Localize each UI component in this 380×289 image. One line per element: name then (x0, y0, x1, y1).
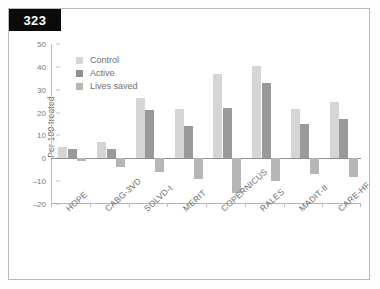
bar-lives-saved (155, 158, 164, 172)
legend-swatch-control (76, 57, 83, 64)
y-tick-label: 50 (24, 40, 46, 49)
page-number-badge: 323 (9, 9, 61, 31)
legend-item: Active (76, 67, 138, 79)
bar-chart: Per 100 treated 50403020100–10–20 Contro… (14, 44, 366, 274)
y-tick-label: 0 (24, 154, 46, 163)
y-axis-line (51, 44, 52, 204)
bar-group (175, 44, 203, 204)
bar-control (58, 147, 67, 158)
y-tick-label: 30 (24, 85, 46, 94)
bar-active (145, 110, 154, 158)
bar-active (300, 124, 309, 158)
legend-label: Active (90, 68, 115, 78)
y-tick-label: 40 (24, 62, 46, 71)
page-container: 323 Per 100 treated 50403020100–10–20 Co… (0, 0, 380, 289)
bar-active (107, 149, 116, 158)
bar-group (213, 44, 241, 204)
bar-lives-saved (194, 158, 203, 179)
bar-lives-saved (310, 158, 319, 174)
bar-group (330, 44, 358, 204)
legend-label: Control (90, 55, 119, 65)
bar-control (291, 109, 300, 158)
x-axis-tick-labels: HOPECABG-3VDSOLVD-tMERITCOPERNICUSRALESM… (51, 206, 361, 268)
y-tick-label: –10 (24, 177, 46, 186)
legend-swatch-lives-saved (76, 83, 83, 90)
legend-label: Lives saved (90, 81, 138, 91)
bar-lives-saved (77, 158, 86, 160)
bar-control (330, 102, 339, 158)
chart-legend: ControlActiveLives saved (76, 54, 138, 93)
bar-control (175, 109, 184, 158)
bar-lives-saved (271, 158, 280, 181)
bar-active (262, 83, 271, 158)
bar-control (97, 142, 106, 158)
legend-item: Control (76, 54, 138, 66)
bar-lives-saved (349, 158, 358, 176)
y-tick-label: –20 (24, 200, 46, 209)
bar-control (252, 66, 261, 159)
legend-item: Lives saved (76, 80, 138, 92)
bar-active (68, 149, 77, 158)
bar-lives-saved (116, 158, 125, 167)
bar-active (339, 119, 348, 158)
bar-control (213, 74, 222, 159)
bar-group (291, 44, 319, 204)
legend-swatch-active (76, 70, 83, 77)
bar-active (184, 126, 193, 158)
bar-active (223, 108, 232, 158)
y-tick-label: 10 (24, 131, 46, 140)
bar-control (136, 98, 145, 159)
y-axis-tick-labels: 50403020100–10–20 (24, 44, 46, 204)
y-tick-label: 20 (24, 108, 46, 117)
